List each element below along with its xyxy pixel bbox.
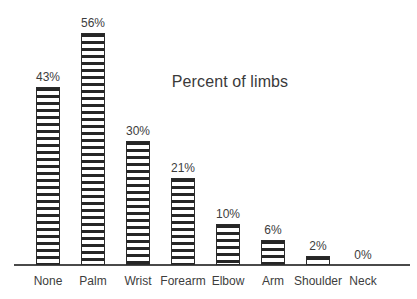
bar-wrap: 6% xyxy=(261,240,285,265)
bar xyxy=(81,33,105,265)
bar xyxy=(261,240,285,265)
bar-wrap: 21% xyxy=(171,178,195,265)
bar-value-label: 21% xyxy=(160,161,206,175)
bar xyxy=(126,141,150,265)
bar-value-label: 6% xyxy=(250,223,296,237)
bar xyxy=(36,87,60,265)
bar-value-label: 56% xyxy=(70,16,116,30)
bar-wrap: 10% xyxy=(216,224,240,265)
bar-value-label: 2% xyxy=(295,239,341,253)
bar xyxy=(216,224,240,265)
bar-value-label: 10% xyxy=(205,207,251,221)
bar-chart-figure: Percent of limbs 43%56%30%21%10%6%2%0% N… xyxy=(0,0,417,299)
bar-value-label: 0% xyxy=(340,248,386,262)
chart-title: Percent of limbs xyxy=(150,73,310,91)
x-axis-category-label: Neck xyxy=(335,274,391,288)
bar-value-label: 30% xyxy=(115,124,161,138)
bar xyxy=(171,178,195,265)
bar xyxy=(306,256,330,265)
bar-wrap: 2% xyxy=(306,256,330,265)
bar-wrap: 30% xyxy=(126,141,150,265)
bar-value-label: 43% xyxy=(25,70,71,84)
bar-wrap: 43% xyxy=(36,87,60,265)
bar-wrap: 0% xyxy=(351,264,375,265)
bar-wrap: 56% xyxy=(81,33,105,265)
